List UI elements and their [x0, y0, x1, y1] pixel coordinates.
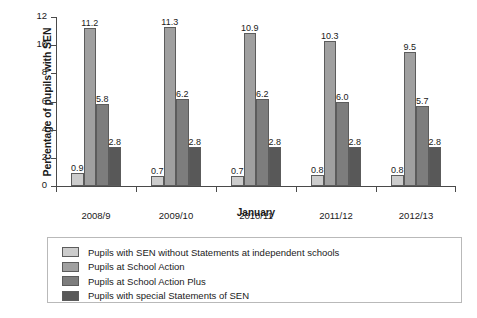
y-axis-tick-label: 12: [36, 10, 47, 21]
bar: 0.7: [151, 176, 164, 186]
x-axis-tick: [56, 187, 57, 192]
plot-area: 0246810120.911.25.82.82008/90.711.36.22.…: [56, 17, 456, 186]
legend-label: Pupils at School Action Plus: [88, 276, 206, 287]
bar-group: 0.710.96.22.8: [231, 17, 281, 186]
bar-chart: Percentage of pupils with SEN 0246810120…: [0, 0, 477, 318]
legend-swatch: [62, 247, 79, 257]
bar: 11.3: [164, 27, 177, 186]
bar: 2.8: [429, 147, 442, 186]
bar-group: 0.810.36.02.8: [311, 17, 361, 186]
x-axis-tick: [296, 187, 297, 192]
bar-value-label: 6.2: [256, 89, 269, 99]
bar: 6.2: [176, 99, 189, 186]
y-axis-tick-label: 2: [42, 151, 47, 162]
y-axis-tick-label: 0: [42, 179, 47, 190]
chart-legend: Pupils with SEN without Statements at in…: [47, 237, 462, 303]
bar: 9.5: [404, 52, 417, 186]
y-axis-tick: 6: [51, 102, 56, 103]
bar: 10.9: [244, 33, 257, 187]
y-axis-tick: 4: [51, 130, 56, 131]
legend-swatch: [62, 276, 79, 286]
bar-value-label: 10.9: [241, 23, 259, 33]
bar-value-label: 9.5: [403, 42, 416, 52]
bar: 5.8: [96, 104, 109, 186]
bar-value-label: 2.8: [428, 137, 441, 147]
y-axis-tick: 2: [51, 158, 56, 159]
bar-value-label: 11.2: [81, 18, 98, 28]
legend-label: Pupils with special Statements of SEN: [88, 290, 249, 301]
bar-value-label: 6.2: [176, 89, 189, 99]
bar: 2.8: [109, 147, 122, 186]
bar-value-label: 0.7: [151, 166, 164, 176]
bar: 10.3: [324, 41, 337, 186]
bar: 0.9: [71, 173, 84, 186]
bar-value-label: 0.8: [311, 165, 324, 175]
bar-value-label: 6.0: [336, 92, 349, 102]
x-axis-tick: [455, 187, 456, 192]
bar-group: 0.89.55.72.8: [391, 17, 441, 186]
x-axis-title: January: [56, 207, 456, 218]
bar-value-label: 0.8: [391, 165, 404, 175]
bar: 2.8: [189, 147, 202, 186]
legend-label: Pupils with SEN without Statements at in…: [88, 247, 339, 258]
bar: 0.8: [391, 175, 404, 186]
y-axis-tick-label: 4: [42, 123, 47, 134]
bar-value-label: 2.8: [268, 137, 281, 147]
bar-value-label: 5.8: [96, 94, 109, 104]
y-axis-line: [56, 17, 57, 187]
y-axis-tick-label: 6: [42, 95, 47, 106]
legend-item[interactable]: Pupils with special Statements of SEN: [62, 289, 249, 303]
bar-value-label: 10.3: [321, 31, 339, 41]
bar-value-label: 0.9: [71, 163, 84, 173]
y-axis-tick: 10: [51, 45, 56, 46]
bar-value-label: 2.8: [188, 137, 201, 147]
bar: 2.8: [349, 147, 362, 186]
x-axis-tick: [376, 187, 377, 192]
y-axis-tick: 8: [51, 73, 56, 74]
bar: 6.0: [336, 102, 349, 187]
bar-value-label: 11.3: [161, 17, 178, 27]
legend-item[interactable]: Pupils with SEN without Statements at in…: [62, 245, 339, 259]
bar: 0.7: [231, 176, 244, 186]
bar: 5.7: [416, 106, 429, 186]
x-axis-line: [56, 186, 456, 187]
x-axis-tick: [216, 187, 217, 192]
bar-group: 0.911.25.82.8: [71, 17, 121, 186]
y-axis-tick: 12: [51, 17, 56, 18]
bar: 2.8: [269, 147, 282, 186]
bar-value-label: 2.8: [348, 137, 361, 147]
bar: 11.2: [84, 28, 97, 186]
bar: 0.8: [311, 175, 324, 186]
legend-swatch: [62, 291, 79, 301]
bar-value-label: 5.7: [416, 96, 429, 106]
x-axis-tick: [136, 187, 137, 192]
legend-swatch: [62, 262, 79, 272]
bar-group: 0.711.36.22.8: [151, 17, 201, 186]
legend-item[interactable]: Pupils at School Action: [62, 260, 185, 274]
bar-value-label: 0.7: [231, 166, 244, 176]
y-axis-tick-label: 10: [36, 38, 47, 49]
y-axis-tick-label: 8: [42, 66, 47, 77]
bar: 6.2: [256, 99, 269, 186]
bar-value-label: 2.8: [108, 137, 121, 147]
legend-label: Pupils at School Action: [88, 261, 185, 272]
legend-item[interactable]: Pupils at School Action Plus: [62, 274, 206, 288]
